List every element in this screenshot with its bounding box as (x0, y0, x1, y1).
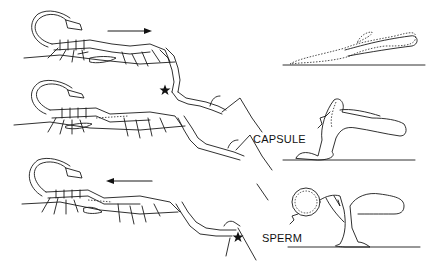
scorpion-pair-row1 (24, 11, 180, 92)
star-marker-icon (232, 231, 244, 243)
spermatophore-stage2 (283, 99, 415, 160)
scorpion-pair-row3 (22, 158, 256, 260)
scorpion-mating-diagram: CAPSULE SPERM (0, 0, 439, 268)
spermatophore-stage3 (288, 188, 420, 247)
sperm-label: SPERM (262, 233, 302, 244)
line-drawing (0, 0, 439, 268)
capsule-label: CAPSULE (253, 134, 306, 145)
scorpion-pair-row2 (14, 80, 272, 170)
arrow-left-icon (106, 178, 152, 184)
arrow-right-icon (108, 28, 152, 34)
substrate-line (257, 184, 268, 200)
spermatophore-stage1 (283, 32, 425, 65)
star-marker-icon (159, 84, 171, 96)
